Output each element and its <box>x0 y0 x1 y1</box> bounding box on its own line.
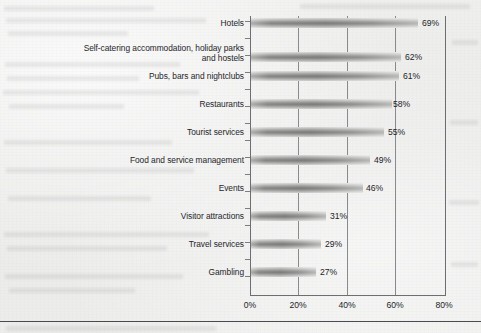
category-label: Tourist services <box>187 128 244 138</box>
value-label: 29% <box>325 239 342 249</box>
axis-tick <box>245 55 250 56</box>
category-label: Gambling <box>209 268 244 278</box>
bar-travel-services <box>251 239 321 249</box>
category-label: Self-catering accommodation, holiday par… <box>84 44 244 63</box>
axis-tick <box>245 21 250 22</box>
xtick-label-20: 20% <box>289 300 306 310</box>
value-label: 62% <box>405 52 422 62</box>
value-label: 55% <box>388 127 405 137</box>
axis-tick <box>245 259 250 260</box>
value-label: 49% <box>374 155 391 165</box>
horizontal-bar-chart: Hotels 69% Self-catering accommodation, … <box>0 0 481 333</box>
value-label: 61% <box>403 71 420 81</box>
xtick-label-0: 0% <box>244 300 256 310</box>
axis-tick <box>245 106 250 107</box>
axis-tick <box>245 89 250 90</box>
axis-tick <box>245 208 250 209</box>
axis-tick <box>245 38 250 39</box>
axis-tick <box>245 242 250 243</box>
bar-food-and-service-management <box>251 155 370 165</box>
bar-pubs-bars-nightclubs <box>251 71 399 81</box>
value-label: 31% <box>330 211 347 221</box>
bar-visitor-attractions <box>251 211 326 221</box>
category-label: Travel services <box>189 240 244 250</box>
bar-events <box>251 183 363 193</box>
page-footer-rule <box>0 321 481 322</box>
bar-hotels <box>251 18 418 28</box>
xtick-label-60: 60% <box>386 300 403 310</box>
axis-tick <box>245 174 250 175</box>
xtick-label-80: 80% <box>435 300 452 310</box>
axis-tick <box>245 191 250 192</box>
category-label: Visitor attractions <box>181 212 244 222</box>
axis-tick <box>245 276 250 277</box>
category-label: Events <box>219 184 244 194</box>
axis-tick <box>245 123 250 124</box>
category-label: Restaurants <box>199 100 244 110</box>
bar-gambling <box>251 267 316 277</box>
xtick-label-40: 40% <box>338 300 355 310</box>
axis-tick <box>245 72 250 73</box>
axis-tick <box>245 157 250 158</box>
value-label: 46% <box>366 183 383 193</box>
value-label: 69% <box>422 18 439 28</box>
value-label: 58% <box>393 99 410 109</box>
bar-restaurants <box>251 99 392 109</box>
value-label: 27% <box>320 267 337 277</box>
bar-self-catering-accommodation <box>251 52 401 62</box>
axis-tick <box>245 140 250 141</box>
category-label: Food and service management <box>130 156 244 166</box>
axis-tick <box>245 225 250 226</box>
category-label: Pubs, bars and nightclubs <box>149 72 244 82</box>
category-label: Hotels <box>221 19 244 29</box>
bar-tourist-services <box>251 127 384 137</box>
